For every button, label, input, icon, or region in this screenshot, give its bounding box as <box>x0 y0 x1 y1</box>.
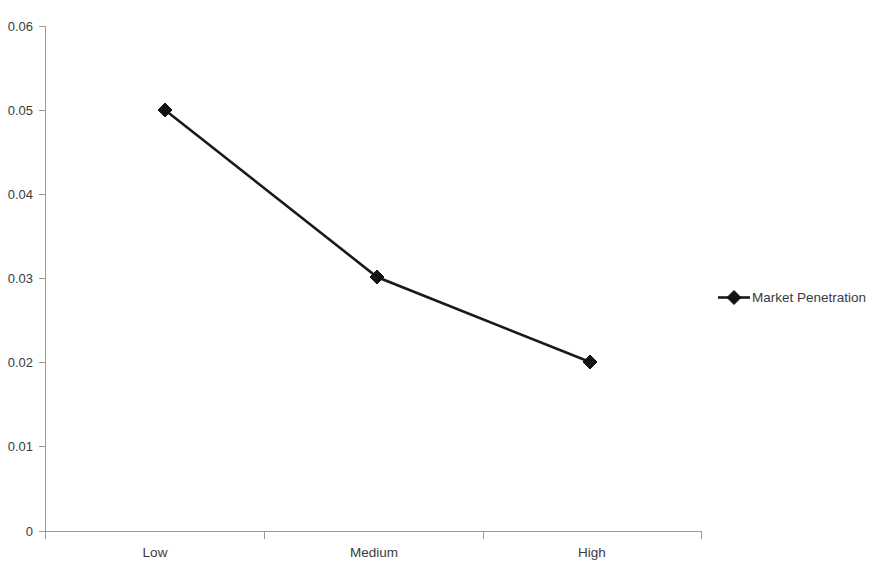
x-axis-tick-label: High <box>578 545 606 560</box>
x-axis-tick-label: Low <box>143 545 168 560</box>
chart-canvas: 0.06 0.05 0.04 0.03 0.02 0.01 0 Low Medi… <box>0 0 888 567</box>
legend: Market Penetration <box>718 290 866 305</box>
x-axis-tick-label: Medium <box>350 545 398 560</box>
legend-diamond-icon <box>727 291 741 305</box>
y-axis-tick-label: 0.03 <box>8 271 33 286</box>
y-axis-tick-label: 0.02 <box>8 355 33 370</box>
y-axis-tick-label: 0 <box>26 524 33 539</box>
y-axis-tick-label: 0.05 <box>8 103 33 118</box>
legend-entry-label: Market Penetration <box>752 290 866 305</box>
line-chart: 0.06 0.05 0.04 0.03 0.02 0.01 0 Low Medi… <box>0 0 888 567</box>
y-axis-tick-label: 0.01 <box>8 439 33 454</box>
y-axis-tick-label: 0.04 <box>8 187 33 202</box>
y-axis-tick-label: 0.06 <box>8 19 33 34</box>
